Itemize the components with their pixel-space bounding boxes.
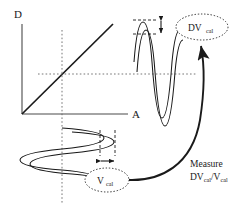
dv-cal-bubble-outline <box>176 14 228 40</box>
callout-divider: /V <box>211 172 221 182</box>
v-cal-bubble: V cal <box>85 168 129 192</box>
dv-cal-label: DV <box>188 23 202 33</box>
callout-dv: DV <box>190 172 204 182</box>
diagram-canvas: D A DV cal V cal Measure <box>0 0 247 204</box>
dv-cal-bubble: DV cal <box>176 14 228 40</box>
y-axis-label: D <box>14 8 22 20</box>
measure-callout-line1: Measure <box>190 159 223 169</box>
dv-cal-subscript: cal <box>206 27 213 34</box>
callout-v-sub: cal <box>220 176 227 183</box>
v-cal-subscript: cal <box>106 180 113 187</box>
calibration-diagram: D A DV cal V cal Measure <box>0 0 247 204</box>
x-axis-label: A <box>132 108 140 120</box>
v-cal-label: V <box>97 176 104 186</box>
